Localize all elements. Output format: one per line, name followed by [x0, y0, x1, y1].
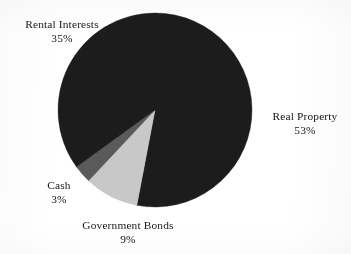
pie-label-cash-name: Cash: [28, 179, 90, 193]
pie-label-government-bonds-value: 9%: [60, 233, 196, 247]
pie-label-government-bonds: Government Bonds 9%: [60, 219, 196, 247]
pie-chart-figure: Rental Interests 35% Real Property 53% C…: [0, 0, 351, 254]
pie-label-rental-interests-value: 35%: [6, 32, 118, 46]
pie-label-rental-interests-name: Rental Interests: [6, 18, 118, 32]
pie-label-cash: Cash 3%: [28, 179, 90, 207]
pie-label-real-property: Real Property 53%: [262, 110, 348, 138]
pie-label-cash-value: 3%: [28, 193, 90, 207]
pie-label-rental-interests: Rental Interests 35%: [6, 18, 118, 46]
pie-label-real-property-name: Real Property: [262, 110, 348, 124]
pie-label-government-bonds-name: Government Bonds: [60, 219, 196, 233]
pie-label-real-property-value: 53%: [262, 124, 348, 138]
